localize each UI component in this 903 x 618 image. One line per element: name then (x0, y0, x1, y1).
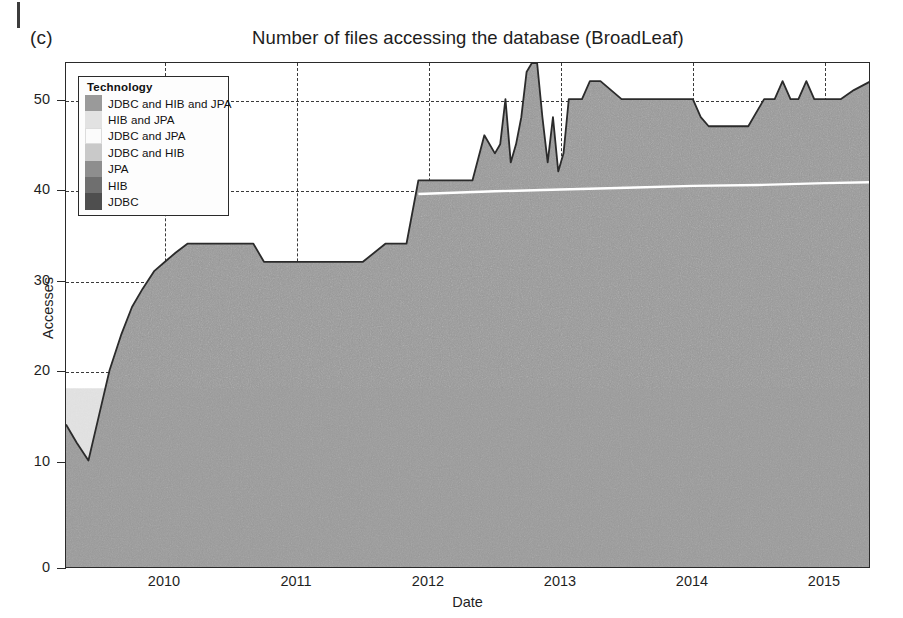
legend-item-label: JDBC and JPA (108, 129, 186, 142)
legend-title: Technology (87, 81, 223, 93)
ytick-label-40: 40 (12, 181, 50, 197)
xtick-label-2012: 2012 (383, 573, 473, 589)
legend-item-label: JDBC (108, 195, 139, 208)
legend-item[interactable]: JDBC (85, 193, 223, 209)
legend-item[interactable]: JPA (85, 161, 223, 177)
ytick-mark-0 (57, 568, 66, 569)
legend-swatch-icon (85, 95, 102, 111)
legend-swatch-icon (85, 111, 102, 127)
xtick-label-2015: 2015 (779, 573, 869, 589)
legend-item[interactable]: JDBC and JPA (85, 128, 223, 144)
ytick-mark-20 (57, 371, 66, 372)
legend-item-label: JPA (108, 162, 129, 175)
ytick-mark-40 (57, 190, 66, 191)
legend-item[interactable]: JDBC and HIB (85, 144, 223, 160)
ytick-label-50: 50 (12, 91, 50, 107)
legend-swatch-icon (85, 144, 102, 160)
legend-swatch-icon (85, 128, 102, 144)
ytick-label-0: 0 (12, 559, 50, 575)
legend-item[interactable]: JDBC and HIB and JPA (85, 95, 223, 111)
legend-item-label: JDBC and HIB and JPA (108, 97, 232, 110)
legend-swatch-icon (85, 177, 102, 193)
legend-swatch-icon (85, 161, 102, 177)
legend-swatch-icon (85, 193, 102, 209)
x-axis-title: Date (65, 594, 870, 610)
ytick-label-10: 10 (12, 453, 50, 469)
legend-item[interactable]: HIB and JPA (85, 111, 223, 127)
ytick-mark-10 (57, 462, 66, 463)
ytick-mark-30 (57, 281, 66, 282)
legend-item-label: JDBC and HIB (108, 146, 185, 159)
panel-label: (c) (30, 27, 53, 49)
xtick-label-2011: 2011 (251, 573, 341, 589)
xtick-label-2014: 2014 (647, 573, 737, 589)
ytick-mark-50 (57, 100, 66, 101)
xtick-label-2010: 2010 (119, 573, 209, 589)
legend-item[interactable]: HIB (85, 177, 223, 193)
legend-items: JDBC and HIB and JPAHIB and JPAJDBC and … (85, 95, 223, 210)
chart-figure: (c) Number of files accessing the databa… (0, 0, 903, 618)
y-axis-title: Accesses (40, 238, 56, 378)
legend: Technology JDBC and HIB and JPAHIB and J… (78, 76, 229, 216)
legend-item-label: HIB (108, 179, 128, 192)
xtick-label-2013: 2013 (515, 573, 605, 589)
legend-item-label: HIB and JPA (108, 113, 175, 126)
area-fill-lower-texture (66, 388, 870, 568)
chart-title: Number of files accessing the database (… (65, 27, 871, 49)
